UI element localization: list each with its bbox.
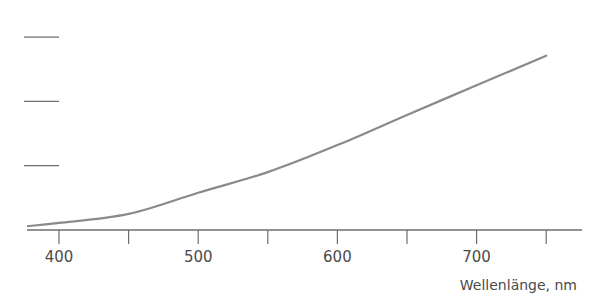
x-tick-label: 500	[184, 248, 213, 266]
line-chart: 400500600700 Wellenlänge, nm	[0, 0, 602, 301]
x-tick-label: 700	[462, 248, 491, 266]
x-tick-label: 600	[323, 248, 352, 266]
y-axis-ticks	[24, 37, 59, 166]
x-axis-title: Wellenlänge, nm	[460, 277, 577, 293]
x-axis-ticks	[59, 230, 546, 244]
x-tick-label: 400	[45, 248, 74, 266]
x-axis-tick-labels: 400500600700	[45, 248, 491, 266]
data-curve	[28, 56, 546, 226]
